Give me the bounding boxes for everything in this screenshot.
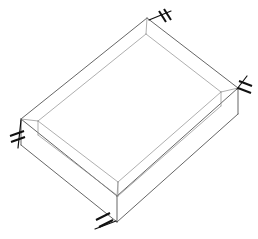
frame-isometric-drawing (0, 0, 258, 239)
weld-tick-right-b (238, 88, 251, 93)
outer-edge-top-right (147, 18, 238, 88)
inner-wall-base-right (118, 106, 221, 196)
outer-edge-bottom-right (117, 88, 238, 196)
outer-edge-top-left (21, 18, 147, 119)
frame-front-right-face (117, 88, 238, 222)
weld-tick-top-a (159, 11, 166, 22)
weld-leader-line-bottom (95, 221, 116, 229)
weld-hatch-mark-right (237, 76, 252, 93)
frame-inner-right-wall (118, 92, 221, 196)
inner-edge-top-right (146, 34, 221, 92)
weld-hatch-mark-top (149, 9, 171, 22)
drawing-canvas (0, 0, 258, 239)
weld-tick-bottom-a (96, 213, 110, 220)
weld-tick-top-b (164, 9, 171, 20)
inner-edge-top-left (38, 34, 146, 121)
